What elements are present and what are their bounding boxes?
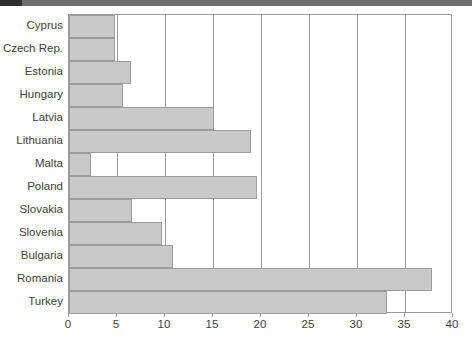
category-label: Cyprus [0, 19, 63, 32]
x-tick [212, 313, 213, 317]
x-tick-label: 40 [446, 318, 459, 330]
bar[interactable] [69, 130, 251, 153]
bar[interactable] [69, 245, 173, 268]
x-tick-label: 5 [113, 318, 119, 330]
category-label: Slovenia [0, 226, 63, 239]
x-tick [164, 313, 165, 317]
x-tick [308, 313, 309, 317]
category-label: Hungary [0, 88, 63, 101]
top-scan-band-cap [0, 0, 22, 6]
top-scan-band [0, 0, 472, 6]
bar[interactable] [69, 222, 162, 245]
x-tick [452, 313, 453, 317]
category-label: Romania [0, 272, 63, 285]
x-tick [260, 313, 261, 317]
category-label: Poland [0, 180, 63, 193]
plot-area [68, 14, 452, 313]
category-label: Lithuania [0, 134, 63, 147]
bar[interactable] [69, 15, 115, 38]
category-label: Turkey [0, 295, 63, 308]
category-label: Czech Rep. [0, 42, 63, 55]
category-axis-labels: CyprusCzech Rep.EstoniaHungaryLatviaLith… [0, 14, 63, 313]
x-axis-labels: 0510152025303540 [0, 318, 472, 338]
x-tick-label: 15 [206, 318, 219, 330]
x-tick-label: 35 [398, 318, 411, 330]
bar[interactable] [69, 107, 214, 130]
x-tick-label: 30 [350, 318, 363, 330]
x-tick [356, 313, 357, 317]
category-label: Latvia [0, 111, 63, 124]
x-tick [116, 313, 117, 317]
bar[interactable] [69, 84, 123, 107]
x-tick-label: 10 [158, 318, 171, 330]
x-tick-label: 20 [254, 318, 267, 330]
category-label: Slovakia [0, 203, 63, 216]
bar[interactable] [69, 38, 115, 61]
category-label: Malta [0, 157, 63, 170]
bar[interactable] [69, 61, 131, 84]
x-tick-label: 25 [302, 318, 315, 330]
bar[interactable] [69, 176, 257, 199]
bar[interactable] [69, 199, 132, 222]
category-label: Estonia [0, 65, 63, 78]
category-label: Bulgaria [0, 249, 63, 262]
bar-chart: CyprusCzech Rep.EstoniaHungaryLatviaLith… [0, 0, 472, 356]
bar[interactable] [69, 268, 432, 291]
x-tick-label: 0 [65, 318, 71, 330]
bar[interactable] [69, 153, 91, 176]
x-tick [404, 313, 405, 317]
bar[interactable] [69, 291, 387, 314]
x-tick [68, 313, 69, 317]
